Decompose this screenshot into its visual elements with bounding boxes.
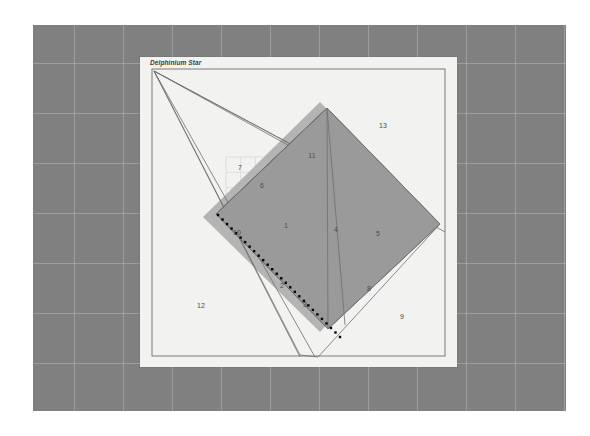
dotted-line-dot	[257, 254, 259, 256]
dotted-line-dot	[289, 286, 291, 288]
screenshot-stage: Delphinium Star 12345678910111213	[0, 0, 590, 436]
dotted-line-dot	[248, 245, 250, 247]
page-title: Delphinium Star	[150, 59, 201, 66]
dotted-line-dot	[239, 236, 241, 238]
dotted-line-dot	[307, 304, 309, 306]
dotted-line-dot	[280, 277, 282, 279]
dotted-line-dot	[334, 331, 336, 333]
dotted-line-dot	[316, 313, 318, 315]
dotted-line-dot	[230, 227, 232, 229]
dotted-line-dot	[235, 232, 237, 234]
dotted-line-dot	[303, 300, 305, 302]
diagram-canvas	[140, 57, 457, 367]
dotted-line-dot	[321, 318, 323, 320]
dotted-line-dot	[267, 264, 269, 266]
dotted-line-dot	[339, 336, 341, 338]
dotted-line-dot	[298, 295, 300, 297]
dotted-line-dot	[312, 309, 314, 311]
dotted-line-dot	[221, 218, 223, 220]
dotted-line-dot	[226, 223, 228, 225]
dotted-line-dot	[244, 241, 246, 243]
dotted-line-dot	[294, 291, 296, 293]
dotted-line-dot	[276, 273, 278, 275]
dotted-line-dot	[325, 322, 327, 324]
dotted-line-dot	[217, 214, 219, 216]
dotted-line-dot	[262, 259, 264, 261]
diagram-card[interactable]: Delphinium Star 12345678910111213	[140, 57, 457, 367]
dotted-line-dot	[330, 327, 332, 329]
dotted-line-dot	[253, 250, 255, 252]
dotted-line-dot	[285, 282, 287, 284]
dotted-line-dot	[271, 268, 273, 270]
